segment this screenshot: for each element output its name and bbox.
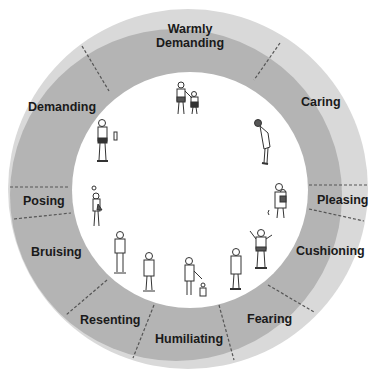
segment-label-caring: Caring — [301, 95, 341, 109]
figure-posing-icon — [86, 184, 108, 230]
figure-woman-bending-icon — [252, 115, 276, 167]
segment-label-bruising: Bruising — [31, 245, 82, 259]
segment-label-fearing: Fearing — [247, 312, 292, 326]
figure-girl-standing-icon — [137, 250, 161, 298]
ring-diagram — [0, 0, 376, 375]
figure-boy-arms-crossed-icon — [108, 230, 132, 278]
segment-label-resenting: Resenting — [80, 313, 140, 327]
figure-adult-holding-child-icon — [265, 182, 295, 222]
segment-label-warmly-demanding: Warmly Demanding — [156, 22, 224, 50]
figure-adult-with-small-child-icon — [180, 255, 210, 305]
segment-label-demanding: Demanding — [28, 100, 96, 114]
figure-child-hands-together-icon — [225, 246, 247, 294]
label-line-2: Demanding — [156, 36, 224, 50]
figure-man-with-bottle-icon — [92, 118, 122, 166]
segment-label-posing: Posing — [23, 194, 65, 208]
segment-label-pleasing: Pleasing — [317, 193, 368, 207]
figure-adult-and-child-icon — [172, 80, 206, 120]
segment-label-humiliating: Humiliating — [155, 332, 223, 346]
segment-label-cushioning: Cushioning — [296, 244, 365, 258]
figure-child-arms-raised-icon — [246, 225, 276, 273]
label-line-1: Warmly — [156, 22, 224, 36]
